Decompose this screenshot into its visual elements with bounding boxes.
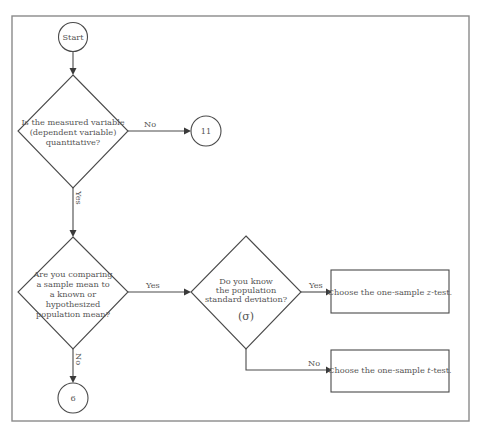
- edge-quantitative-yes: Yes: [70, 188, 85, 237]
- decision-compare-mean-line-3: a known or: [50, 289, 96, 299]
- edge-label-no: No: [308, 358, 320, 368]
- start-label: Start: [63, 32, 85, 42]
- edge-label-no: No: [144, 119, 156, 129]
- connector-6-label: 6: [70, 393, 75, 403]
- decision-quantitative-line-3: quantitative?: [46, 137, 101, 147]
- decision-quantitative: Is the measured variable (dependent vari…: [18, 75, 128, 188]
- decision-quantitative-line-2: (dependent variable): [30, 127, 117, 137]
- decision-compare-mean-line-5: population mean?: [36, 309, 110, 319]
- edge-compare-mean-no: No: [70, 349, 85, 383]
- decision-quantitative-line-1: Is the measured variable: [21, 117, 124, 127]
- edge-label-no: No: [74, 353, 84, 365]
- arrowhead-icon: [70, 376, 77, 383]
- connector-11-label: 11: [201, 126, 211, 136]
- arrowhead-icon: [70, 230, 77, 237]
- result-z-text: Choose the one-sample z-test.: [328, 287, 452, 297]
- decision-know-sigma-line-3: standard deviation?: [205, 294, 287, 304]
- edge-know-sigma-no: No: [246, 349, 332, 374]
- connector-6: 6: [58, 383, 88, 413]
- decision-compare-mean-line-2: a sample mean to: [36, 279, 109, 289]
- connector-11: 11: [191, 116, 221, 146]
- decision-know-sigma: Do you know the population standard devi…: [191, 236, 301, 349]
- result-t-test: Choose the one-sample t-test.: [328, 350, 451, 392]
- arrowhead-icon: [184, 128, 191, 135]
- edge-label-yes: Yes: [308, 280, 323, 290]
- decision-compare-mean-line-1: Are you comparing: [32, 269, 112, 279]
- start-node: Start: [59, 23, 88, 52]
- edge-start-to-quantitative: [70, 52, 77, 76]
- arrowhead-icon: [184, 289, 191, 296]
- result-t-text: Choose the one-sample t-test.: [328, 365, 451, 375]
- sigma-symbol: (σ): [238, 310, 254, 323]
- edge-label-yes: Yes: [74, 190, 84, 205]
- edge-label-yes: Yes: [145, 280, 160, 290]
- decision-compare-mean-line-4: hypothesized: [46, 299, 101, 309]
- result-z-test: Choose the one-sample z-test.: [328, 270, 452, 313]
- edge-quantitative-no: No: [128, 119, 191, 135]
- flowchart-canvas: Start Is the measured variable (dependen…: [0, 0, 480, 431]
- decision-compare-mean: Are you comparing a sample mean to a kno…: [18, 237, 128, 349]
- edge-compare-mean-yes: Yes: [128, 280, 191, 296]
- arrowhead-icon: [70, 68, 77, 75]
